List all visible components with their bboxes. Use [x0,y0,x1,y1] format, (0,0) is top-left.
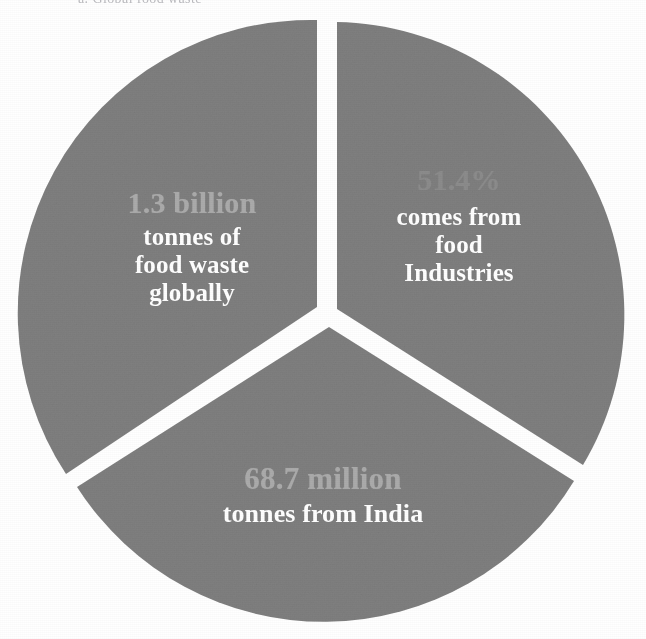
pie-chart: 1.3 billion tonnes of food waste globall… [0,0,646,639]
pie-chart-svg [0,0,646,639]
top-edge-scan-artifact: a. Global food waste [0,0,646,14]
cropped-caption-fragment: a. Global food waste [78,0,202,7]
